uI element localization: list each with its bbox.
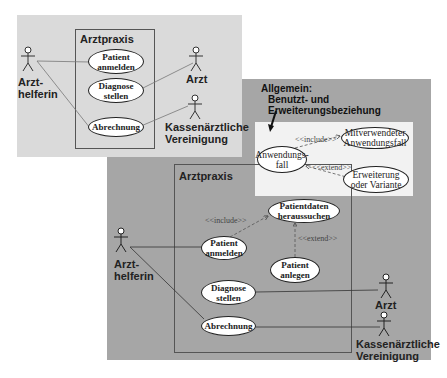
use-case-abrechnung-extended[interactable]: Abrechnung bbox=[201, 316, 256, 336]
use-case-patient-anmelden-simple[interactable]: Patientanmelden bbox=[88, 49, 144, 74]
legend-extend-label: <<extend>> bbox=[312, 163, 351, 172]
actor-figure-arzt-extended bbox=[379, 274, 393, 298]
actor-label-arzt-simple: Arzt bbox=[186, 73, 207, 85]
legend-use-case-base: Anwendungs-fall bbox=[257, 146, 307, 173]
legend-subtitle: Benutzt- undErweiterungsbeziehung bbox=[268, 94, 381, 116]
legend-use-case-included: MitverwendeterAnwendungsfall bbox=[341, 127, 409, 149]
actor-label-kv-extended: KassenärztlicheVereinigung bbox=[356, 338, 440, 362]
actor-figure-arzthelferin-extended bbox=[114, 228, 128, 252]
use-case-patientdaten-heraussuchen[interactable]: Patientdatenheraussuchen bbox=[268, 199, 340, 223]
actor-label-kv-simple: KassenärztlicheVereinigung bbox=[165, 121, 249, 145]
actor-label-arzt-extended: Arzt bbox=[375, 299, 396, 311]
extended-include-label: <<include>> bbox=[205, 216, 247, 225]
actor-figure-arzt-simple bbox=[189, 47, 203, 71]
use-case-patient-anmelden-extended[interactable]: Patientanmelden bbox=[201, 236, 247, 260]
actor-label-arzthelferin-simple: Arzt-helferin bbox=[18, 76, 58, 100]
extended-extend-label: <<extend>> bbox=[298, 234, 337, 243]
actor-label-arzthelferin-extended: Arzt-helferin bbox=[114, 258, 154, 282]
use-case-abrechnung-simple[interactable]: Abrechnung bbox=[88, 117, 144, 137]
legend-title: Allgemein: bbox=[261, 83, 312, 94]
actor-figure-kv-extended bbox=[377, 312, 391, 336]
actor-figure-arzthelferin-simple bbox=[21, 47, 35, 71]
use-case-patient-anlegen[interactable]: Patientanlegen bbox=[270, 257, 320, 283]
use-case-diagnose-stellen-extended[interactable]: Diagnosestellen bbox=[201, 280, 256, 305]
use-case-diagnose-stellen-simple[interactable]: Diagnosestellen bbox=[88, 78, 144, 103]
legend-include-label: <<include>> bbox=[295, 135, 337, 144]
actor-figure-kv-simple bbox=[188, 95, 202, 119]
legend-use-case-extension: Erweiterungoder Variante bbox=[343, 166, 409, 193]
